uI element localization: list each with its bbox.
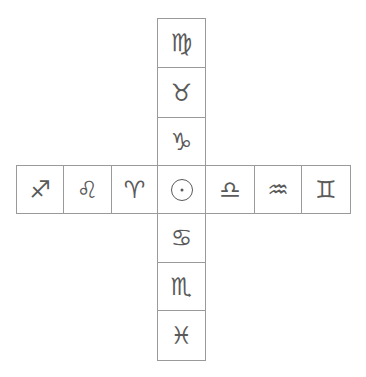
- capricorn-icon: ♑: [171, 130, 193, 154]
- gemini-icon: ♊: [315, 178, 337, 202]
- cell-libra: ♎: [205, 165, 255, 214]
- cell-scorpio: ♏: [157, 262, 206, 311]
- cell-virgo: ♍: [157, 18, 206, 68]
- virgo-icon: ♍: [171, 31, 193, 55]
- cell-aries: ♈: [111, 165, 158, 214]
- cell-cancer: ♋: [157, 213, 206, 263]
- sun-icon: [171, 179, 193, 201]
- cell-aquarius: ♒: [254, 165, 302, 214]
- libra-icon: ♎: [219, 178, 241, 202]
- cell-pisces: ♓: [157, 310, 206, 361]
- cell-sun-center: [157, 165, 206, 214]
- aquarius-icon: ♒: [267, 178, 289, 202]
- aries-icon: ♈: [124, 178, 146, 202]
- sagittarius-icon: ♐: [29, 178, 51, 202]
- cell-sagittarius: ♐: [16, 165, 64, 214]
- cell-taurus: ♉: [157, 67, 206, 118]
- leo-icon: ♌: [77, 178, 99, 202]
- pisces-icon: ♓: [171, 324, 193, 348]
- taurus-icon: ♉: [171, 81, 193, 105]
- cell-gemini: ♊: [301, 165, 351, 214]
- cell-capricorn: ♑: [157, 117, 206, 166]
- cancer-icon: ♋: [171, 226, 193, 250]
- scorpio-icon: ♏: [171, 275, 193, 299]
- cell-leo: ♌: [63, 165, 112, 214]
